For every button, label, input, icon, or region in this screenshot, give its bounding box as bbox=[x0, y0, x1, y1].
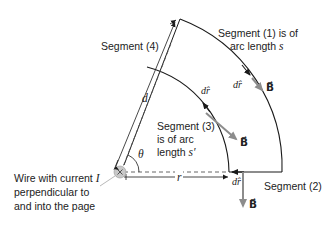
segment-3-label-line3: length s′ bbox=[157, 146, 196, 159]
segment-1-label-line2: arc length s bbox=[230, 40, 284, 53]
segment-3-label-line2: is of arc bbox=[157, 133, 194, 146]
theta-label: θ bbox=[138, 148, 144, 161]
wire-label-text: Wire with current bbox=[14, 172, 96, 184]
inner-dr-label: dr̂ bbox=[201, 85, 210, 96]
current-I-symbol: I bbox=[96, 172, 100, 184]
segment-2-label: Segment (2) bbox=[264, 180, 322, 193]
segment-3-label-line1: Segment (3) bbox=[157, 120, 215, 133]
outer-dr-label: dr̂ bbox=[233, 79, 242, 90]
wire-label-line3: and into the page bbox=[14, 200, 95, 213]
bottom-B-label: B⃗ bbox=[249, 198, 257, 210]
segment-3-length-text: length bbox=[157, 146, 189, 158]
segment-1-label-line1: Segment (1) is of bbox=[218, 27, 298, 40]
segment-4-label: Segment (4) bbox=[101, 40, 159, 53]
wire-label-line2: perpendicular to bbox=[14, 186, 89, 199]
inner-dr-arrow bbox=[203, 103, 210, 112]
outer-B-label: B⃗ bbox=[266, 81, 274, 93]
d-label: d bbox=[142, 92, 148, 105]
segment-1-arc-text: arc length bbox=[230, 40, 279, 52]
bottom-dr-label: dr̂ bbox=[232, 176, 241, 187]
r-label: r bbox=[175, 171, 183, 184]
outer-B-arrow bbox=[252, 78, 262, 90]
s-symbol: s bbox=[279, 40, 283, 52]
d-dimension-arrow bbox=[170, 20, 176, 24]
inner-B-label: B⃗ bbox=[240, 136, 248, 148]
wire-leader-line bbox=[100, 176, 115, 186]
s-prime-symbol: s′ bbox=[189, 146, 196, 158]
wire-label-line1: Wire with current I bbox=[14, 172, 100, 185]
